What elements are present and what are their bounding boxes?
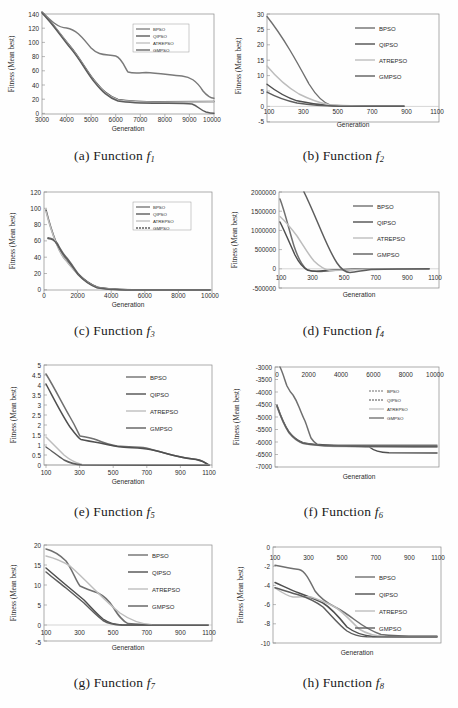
svg-text:100: 100 (264, 108, 275, 115)
caption-d: (d) Function f4 (229, 323, 458, 339)
svg-text:30: 30 (257, 11, 265, 18)
svg-text:500: 500 (332, 108, 343, 115)
legend-item-qipso-f: QIPSO (387, 398, 401, 403)
legend-item-qipso-h: QIPSO (379, 592, 398, 598)
axes-e: Fitness (Mean best) 5 4.5 4 3.5 3 2.5 2 … (10, 362, 216, 486)
svg-text:900: 900 (175, 469, 186, 476)
svg-text:2.5: 2.5 (32, 412, 41, 419)
panel-a-plot: Fitness (Mean best) 140 120 100 80 60 40… (0, 0, 229, 150)
caption-b: (b) Function f2 (229, 148, 458, 164)
svg-text:3.5: 3.5 (32, 392, 41, 399)
x-ticks-e: 100 300 500 700 900 1100 Generation (41, 465, 217, 485)
caption-a-sub: 1 (150, 154, 154, 164)
svg-text:20: 20 (257, 41, 265, 48)
svg-text:100: 100 (270, 554, 281, 561)
svg-text:1: 1 (37, 442, 41, 449)
caption-c: (c) Function f3 (0, 323, 229, 339)
x-ticks-d: 100 300 500 700 900 1100 Generation (276, 274, 443, 299)
legend-item-qipso-b: QIPSO (379, 42, 398, 48)
panel-d-plot: Fitness (Mean best) 2000000 1500000 1000… (229, 180, 458, 328)
svg-text:-4500: -4500 (256, 401, 273, 408)
legend-item-gmpso-b: GMPSO (379, 74, 402, 80)
caption-h: (h) Function f8 (229, 675, 458, 691)
svg-text:3000: 3000 (35, 116, 50, 123)
svg-text:2000000: 2000000 (251, 189, 276, 196)
legend-item-gmpso-g: GMPSO (152, 604, 175, 610)
svg-text:0: 0 (42, 292, 46, 299)
svg-text:8000: 8000 (399, 371, 414, 378)
svg-text:2000: 2000 (301, 371, 316, 378)
svg-text:500000: 500000 (255, 246, 277, 253)
svg-text:20: 20 (32, 96, 40, 103)
svg-text:2000: 2000 (70, 292, 85, 299)
caption-g: (g) Function f7 (0, 675, 229, 691)
legend-g: BPSO QIPSO ATREPSO GMPSO (128, 553, 181, 610)
y-axis-label-h: Fitness (Mean best) (237, 566, 245, 623)
y-axis-label-e: Fitness (Mean best) (10, 386, 18, 443)
svg-text:-5: -5 (258, 118, 264, 125)
curves-f (277, 367, 437, 453)
svg-text:6000: 6000 (109, 116, 124, 123)
caption-e: (e) Function f5 (0, 504, 229, 520)
caption-d-word: Function (323, 323, 373, 338)
svg-text:4.5: 4.5 (32, 372, 41, 379)
chart-a: Fitness (Mean best) 140 120 100 80 60 40… (0, 0, 229, 150)
x-axis-label-c: Generation (112, 301, 145, 308)
caption-d-prefix: (d) (303, 323, 319, 338)
caption-f-sub: 6 (379, 510, 383, 520)
svg-text:-3000: -3000 (256, 364, 273, 371)
panel-b-plot: Fitness (Mean best) 30 25 20 15 10 5 0 -… (229, 0, 458, 150)
svg-text:100: 100 (276, 274, 287, 281)
legend-c: BPSO QIPSO ATREPSO GMPSO (133, 202, 191, 231)
legend-e: BPSO QIPSO ATREPSO GMPSO (126, 375, 179, 432)
svg-text:900: 900 (404, 554, 415, 561)
svg-text:-5500: -5500 (256, 426, 273, 433)
svg-text:300: 300 (303, 554, 314, 561)
svg-text:300: 300 (298, 108, 309, 115)
svg-text:700: 700 (367, 108, 378, 115)
svg-text:500: 500 (337, 554, 348, 561)
panel-g-plot: Fitness (Mean best) 20 15 10 5 0 -5 100 (0, 535, 229, 680)
svg-text:0.5: 0.5 (32, 452, 41, 459)
svg-text:900: 900 (175, 629, 186, 636)
panel-h-plot: Fitness (Mean best) 0 -2 -4 -6 -8 -10 10… (229, 535, 458, 680)
y-axis-label-c: Fitness (Mean best) (9, 212, 17, 269)
legend-item-atrepso-a: ATREPSO (153, 41, 174, 46)
svg-text:0: 0 (275, 371, 279, 378)
caption-c-prefix: (c) (74, 323, 90, 338)
chart-e: Fitness (Mean best) 5 4.5 4 3.5 3 2.5 2 … (0, 355, 229, 505)
axes-b: Fitness (Mean best) 30 25 20 15 10 5 0 -… (235, 11, 444, 129)
legend-item-gmpso-h: GMPSO (379, 626, 402, 632)
svg-text:700: 700 (141, 469, 152, 476)
legend-item-bpso-d: BPSO (377, 204, 394, 210)
svg-text:-4000: -4000 (256, 389, 273, 396)
svg-text:1.5: 1.5 (32, 432, 41, 439)
svg-text:10: 10 (34, 582, 42, 589)
chart-d: Fitness (Mean best) 2000000 1500000 1000… (229, 180, 458, 328)
chart-f: Fitness (Mean best) -3000 -3500 -4000 -4… (229, 355, 458, 505)
svg-text:1000000: 1000000 (251, 227, 276, 234)
svg-text:15: 15 (34, 562, 42, 569)
curves-a (42, 12, 214, 113)
svg-text:-6000: -6000 (256, 439, 273, 446)
legend-item-bpso-h: BPSO (379, 575, 396, 581)
caption-e-word: Function (93, 504, 143, 519)
panel-b: Fitness (Mean best) 30 25 20 15 10 5 0 -… (229, 0, 458, 180)
svg-text:700: 700 (141, 629, 152, 636)
svg-text:1100: 1100 (431, 554, 445, 561)
x-ticks-g: 100 300 500 700 900 1100 Generation (41, 629, 217, 651)
legend-item-atrepso-e: ATREPSO (150, 409, 179, 415)
svg-text:120: 120 (30, 189, 41, 196)
svg-text:4000: 4000 (334, 371, 349, 378)
svg-text:5: 5 (37, 362, 41, 369)
svg-text:500: 500 (108, 469, 119, 476)
panel-e: Fitness (Mean best) 5 4.5 4 3.5 3 2.5 2 … (0, 355, 229, 535)
panel-g: Fitness (Mean best) 20 15 10 5 0 -5 100 (0, 535, 229, 708)
caption-e-prefix: (e) (74, 504, 90, 519)
svg-text:-500000: -500000 (253, 285, 277, 292)
caption-f: (f) Function f6 (229, 504, 458, 520)
caption-g-prefix: (g) (74, 675, 90, 690)
legend-item-gmpso-d: GMPSO (377, 252, 400, 258)
x-axis-label-d: Generation (343, 291, 376, 298)
svg-text:700: 700 (370, 554, 381, 561)
